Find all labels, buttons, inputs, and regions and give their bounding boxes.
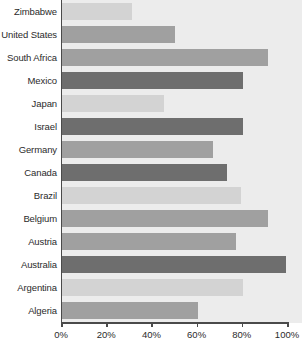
x-tick-label: 20% <box>84 329 128 340</box>
category-label-mexico: Mexico <box>0 69 57 92</box>
category-label-belgium: Belgium <box>0 207 57 230</box>
bar-argentina <box>62 279 243 296</box>
bar-row: Algeria <box>0 299 302 322</box>
category-label-argentina: Argentina <box>0 276 57 299</box>
x-tick-mark <box>61 322 63 327</box>
bar-row: Austria <box>0 230 302 253</box>
category-label-canada: Canada <box>0 161 57 184</box>
bar-brazil <box>62 187 241 204</box>
x-tick-mark <box>197 322 199 327</box>
x-tick-mark <box>151 322 153 327</box>
category-label-zimbabwe: Zimbabwe <box>0 0 57 23</box>
bar-japan <box>62 95 164 112</box>
x-tick-label: 40% <box>129 329 173 340</box>
bar-rows-container: ZimbabweUnited StatesSouth AfricaMexicoJ… <box>0 0 302 323</box>
x-tick-mark <box>287 322 289 327</box>
x-tick-label: 60% <box>175 329 219 340</box>
bar-row: Brazil <box>0 184 302 207</box>
x-tick-label: 100% <box>265 329 302 340</box>
bar-row: United States <box>0 23 302 46</box>
bar-united-states <box>62 26 175 43</box>
x-tick-label: 0% <box>39 329 83 340</box>
category-label-germany: Germany <box>0 138 57 161</box>
bar-row: Argentina <box>0 276 302 299</box>
bar-austria <box>62 233 236 250</box>
x-tick-mark <box>242 322 244 327</box>
bar-row: Germany <box>0 138 302 161</box>
category-label-algeria: Algeria <box>0 299 57 322</box>
category-label-austria: Austria <box>0 230 57 253</box>
horizontal-bar-chart: ZimbabweUnited StatesSouth AfricaMexicoJ… <box>0 0 302 351</box>
bar-germany <box>62 141 213 158</box>
bar-australia <box>62 256 286 273</box>
bar-row: Canada <box>0 161 302 184</box>
bar-south-africa <box>62 49 268 66</box>
x-tick-mark <box>106 322 108 327</box>
bar-canada <box>62 164 227 181</box>
bar-row: Mexico <box>0 69 302 92</box>
bar-zimbabwe <box>62 3 132 20</box>
bar-row: Israel <box>0 115 302 138</box>
category-label-japan: Japan <box>0 92 57 115</box>
bar-row: Australia <box>0 253 302 276</box>
bar-israel <box>62 118 243 135</box>
bar-mexico <box>62 72 243 89</box>
bar-row: South Africa <box>0 46 302 69</box>
bar-belgium <box>62 210 268 227</box>
bar-row: Belgium <box>0 207 302 230</box>
bar-row: Zimbabwe <box>0 0 302 23</box>
category-label-australia: Australia <box>0 253 57 276</box>
bar-row: Japan <box>0 92 302 115</box>
x-axis-line <box>61 322 289 324</box>
category-label-south-africa: South Africa <box>0 46 57 69</box>
category-label-brazil: Brazil <box>0 184 57 207</box>
x-tick-label: 80% <box>220 329 264 340</box>
category-label-israel: Israel <box>0 115 57 138</box>
bar-algeria <box>62 302 198 319</box>
category-label-united-states: United States <box>0 23 57 46</box>
